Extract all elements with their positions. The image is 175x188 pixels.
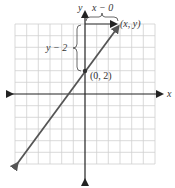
coordinate-plane: y x x − 0 y − 2 (0, 2) (x, y) xyxy=(0,0,175,188)
x-axis-label: x xyxy=(166,88,172,99)
horizontal-brace xyxy=(86,13,118,21)
point-0-2-label: (0, 2) xyxy=(90,70,112,82)
horizontal-brace-label: x − 0 xyxy=(91,2,113,13)
y-axis-label: y xyxy=(77,2,83,13)
point-0-2 xyxy=(83,69,87,73)
vertical-brace xyxy=(73,25,81,71)
vertical-brace-label: y − 2 xyxy=(45,42,67,53)
point-xy-label: (x, y) xyxy=(120,18,141,30)
